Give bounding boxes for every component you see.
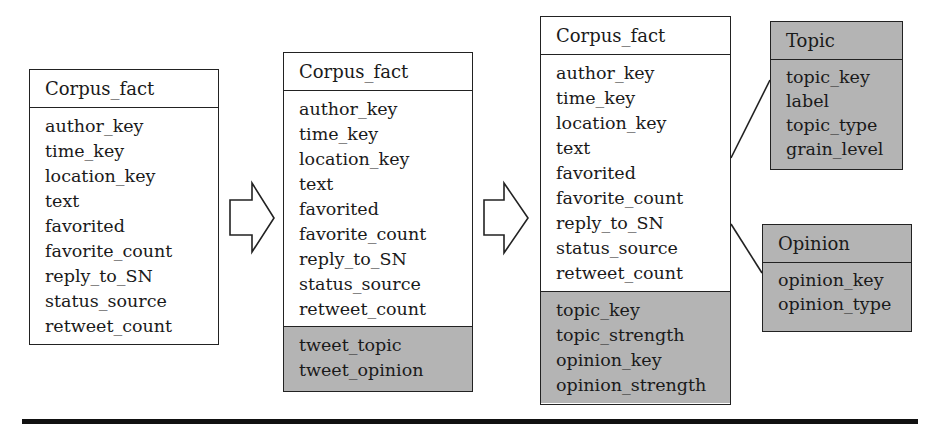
bottom-rule [22,419,918,424]
transform-arrow-2-icon [484,183,528,253]
topic-relationship-line [731,80,770,158]
transform-arrow-1-icon [230,183,274,252]
opinion-relationship-line [731,224,762,273]
connectors-layer [0,0,945,431]
